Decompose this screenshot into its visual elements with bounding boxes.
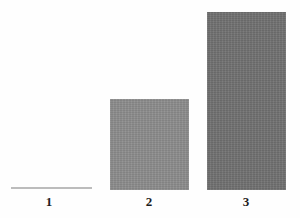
bar-category-3 [207,12,286,190]
x-tick-label-3: 3 [226,194,266,210]
bar-chart-figure: 1 2 3 [0,0,300,218]
x-tick-label-1: 1 [29,194,69,210]
x-tick-label-2: 2 [129,194,169,210]
plot-area [0,0,300,190]
bar-category-2 [110,99,189,190]
x-axis-tick-labels: 1 2 3 [0,190,300,218]
bar-category-1 [11,187,92,189]
